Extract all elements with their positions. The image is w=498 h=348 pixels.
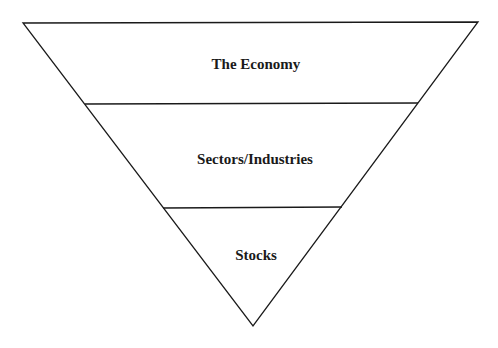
layer-label-stocks: Stocks — [235, 247, 277, 263]
inverted-pyramid-diagram: The Economy Sectors/Industries Stocks — [0, 0, 498, 348]
layer-label-sectors: Sectors/Industries — [197, 151, 313, 167]
layer-label-economy: The Economy — [212, 56, 301, 72]
